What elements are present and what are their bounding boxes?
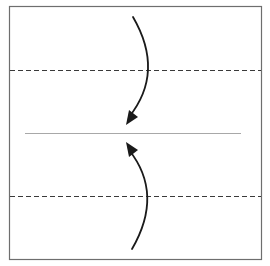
fold-diagram bbox=[0, 0, 270, 266]
